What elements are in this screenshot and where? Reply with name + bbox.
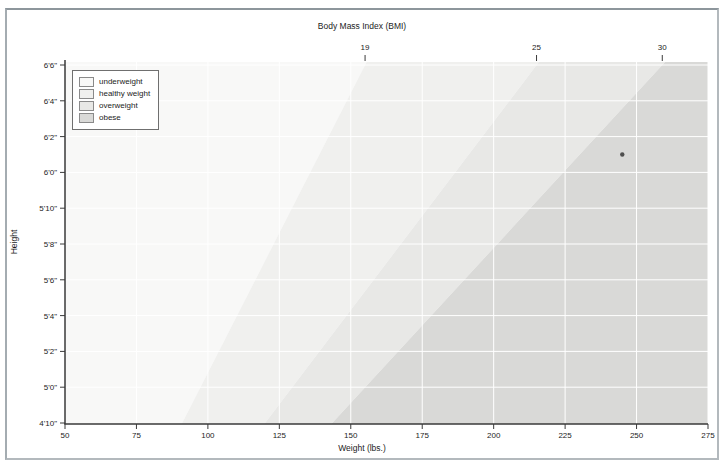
y-axis-title: Height	[9, 212, 19, 272]
x-tick-label: 75	[132, 431, 141, 440]
bmi-tick-label: 25	[532, 43, 541, 52]
bmi-tick-label: 30	[658, 43, 667, 52]
x-tick-label: 275	[701, 431, 715, 440]
y-tick-label: 6'4"	[44, 97, 57, 106]
y-tick-label: 5'6"	[44, 276, 57, 285]
data-point-marker	[620, 152, 624, 156]
y-tick-label: 4'10"	[39, 419, 57, 428]
y-tick-label: 6'0"	[44, 168, 57, 177]
y-tick-label: 5'2"	[44, 347, 57, 356]
bmi-tick-label: 19	[361, 43, 370, 52]
y-tick-label: 5'8"	[44, 240, 57, 249]
legend-item-underweight: underweight	[79, 76, 150, 88]
x-tick-label: 100	[201, 431, 215, 440]
x-axis-title: Weight (lbs.)	[0, 443, 724, 453]
x-tick-label: 175	[416, 431, 430, 440]
legend-item-obese: obese	[79, 112, 150, 124]
legend-swatch-underweight	[79, 77, 94, 87]
top-axis-title: Body Mass Index (BMI)	[0, 21, 724, 31]
x-tick-label: 50	[61, 431, 70, 440]
y-tick-label: 6'6"	[44, 61, 57, 70]
x-tick-label: 200	[487, 431, 501, 440]
legend-swatch-obese	[79, 113, 94, 123]
y-tick-label: 5'4"	[44, 312, 57, 321]
legend-label: healthy weight	[99, 88, 150, 100]
legend-item-healthy-weight: healthy weight	[79, 88, 150, 100]
legend-item-overweight: overweight	[79, 100, 150, 112]
legend-swatch-overweight	[79, 101, 94, 111]
y-tick-label: 5'0"	[44, 383, 57, 392]
y-tick-label: 5'10"	[39, 204, 57, 213]
legend-label: underweight	[99, 76, 143, 88]
y-tick-label: 6'2"	[44, 133, 57, 142]
x-tick-label: 150	[344, 431, 358, 440]
x-tick-label: 250	[630, 431, 644, 440]
x-tick-label: 225	[558, 431, 572, 440]
legend-label: overweight	[99, 100, 138, 112]
bmi-chart-figure: 50751001251501752002252502754'10"5'0"5'2…	[0, 0, 724, 468]
legend-swatch-healthy-weight	[79, 89, 94, 99]
x-tick-label: 125	[273, 431, 287, 440]
legend: underweight healthy weight overweight ob…	[72, 70, 159, 130]
legend-label: obese	[99, 112, 121, 124]
